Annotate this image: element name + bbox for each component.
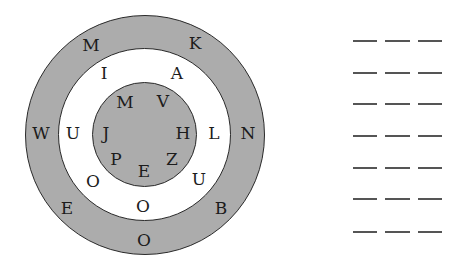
- inner-ring-letter: H: [176, 125, 191, 142]
- middle-ring-letter: O: [86, 173, 100, 190]
- outer-ring-letter: N: [241, 125, 256, 142]
- inner-ring-letter: E: [138, 163, 150, 180]
- inner-ring-letter: Z: [166, 151, 178, 168]
- outer-ring-letter: B: [215, 200, 228, 217]
- middle-ring-letter: I: [101, 65, 108, 82]
- outer-ring-letter: E: [61, 200, 73, 217]
- middle-ring-letter: L: [208, 125, 219, 142]
- inner-ring-letter: V: [157, 93, 169, 110]
- middle-ring-letter: A: [171, 65, 183, 82]
- inner-ring-letter: J: [103, 125, 110, 142]
- letter-circle-puzzle: MKWNEBOIAULOUOMVJHPEZ: [0, 0, 463, 266]
- middle-ring-letter: U: [66, 125, 80, 142]
- inner-ring-letter: P: [110, 151, 121, 168]
- inner-ring-letter: M: [116, 94, 133, 111]
- outer-ring-letter: O: [137, 232, 151, 249]
- middle-ring-letter: O: [136, 198, 150, 215]
- letters-layer: MKWNEBOIAULOUOMVJHPEZ: [0, 0, 463, 266]
- outer-ring-letter: K: [189, 35, 202, 52]
- middle-ring-letter: U: [192, 171, 206, 188]
- outer-ring-letter: M: [82, 37, 99, 54]
- outer-ring-letter: W: [32, 125, 49, 142]
